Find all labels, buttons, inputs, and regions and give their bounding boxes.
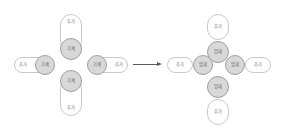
node-label: 추가: [214, 110, 222, 114]
node-right-east-circle[interactable]: 업데: [225, 55, 245, 75]
node-right-south-circle[interactable]: 업데: [207, 76, 229, 98]
node-left-east-circle[interactable]: 기계: [87, 55, 107, 75]
arrow-head: [157, 62, 162, 66]
node-right-west-circle[interactable]: 업데: [193, 55, 213, 75]
node-label: 업데: [214, 85, 222, 89]
node-left-top-circle[interactable]: 기계: [60, 38, 82, 60]
node-label: 업데: [214, 50, 222, 54]
node-left-south-circle[interactable]: 기계: [60, 70, 82, 92]
arrow-shaft: [133, 64, 158, 65]
node-label: 업데: [199, 63, 207, 67]
node-label: 업데: [231, 63, 239, 67]
node-label: 기계: [67, 79, 75, 83]
node-label: 기계: [41, 63, 49, 67]
node-label: 추가: [19, 63, 27, 67]
node-right-top-pill[interactable]: 추가: [207, 14, 229, 40]
node-right-east-pill[interactable]: 추가: [245, 57, 271, 73]
node-label: 기계: [93, 63, 101, 67]
node-right-south-pill[interactable]: 추가: [207, 99, 229, 125]
node-label: 추가: [254, 63, 262, 67]
node-label: 추가: [67, 106, 75, 110]
node-label: 추가: [214, 25, 222, 29]
node-right-west-pill[interactable]: 추가: [167, 57, 193, 73]
transformation-arrow-icon: [133, 64, 163, 66]
node-label: 기계: [67, 47, 75, 51]
node-label: 추가: [67, 20, 75, 24]
node-label: 추가: [115, 63, 123, 67]
node-label: 추가: [176, 63, 184, 67]
diagram-canvas: 추가 기계 추가 기계 추가 기계 추가 기계: [0, 0, 292, 130]
node-left-west-circle[interactable]: 기계: [35, 55, 55, 75]
